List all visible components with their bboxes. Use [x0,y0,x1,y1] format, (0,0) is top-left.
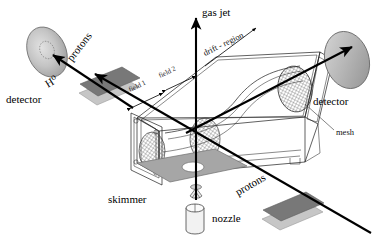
protons-lower-label: protons [233,171,268,198]
right-field-plates [262,192,324,230]
gas-jet-label: gas jet [202,6,230,18]
mesh-leader-line [305,104,334,130]
drift-beam [186,47,352,133]
nozzle-cylinder [186,204,204,234]
mesh-grid [275,64,315,114]
drift-region-label: drift - region [201,29,245,57]
mesh-label: mesh [336,127,355,137]
field-2-label: field 2 [157,64,177,79]
skimmer-label: skimmer [108,193,147,205]
nozzle-label: nozzle [212,212,241,224]
protons-upper-label: protons [64,30,94,63]
detector-right-label: detector [313,95,349,107]
apparatus-figure: gas jet protons protons H⁰ detector dete… [0,0,387,246]
detector-left-label: detector [6,93,42,105]
